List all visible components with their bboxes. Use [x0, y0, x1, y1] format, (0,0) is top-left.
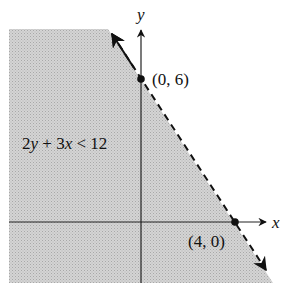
point-label-y-intercept: (0, 6)	[152, 70, 189, 89]
inequality-label: 2y + 3x < 12	[22, 134, 107, 153]
inequality-graph: y x (0, 6) (4, 0) 2y + 3x < 12	[0, 0, 286, 296]
point-label-x-intercept: (4, 0)	[188, 232, 225, 251]
y-axis-label: y	[135, 5, 145, 24]
x-axis-label: x	[271, 213, 280, 232]
point-x-intercept	[231, 218, 239, 226]
point-y-intercept	[137, 75, 145, 83]
